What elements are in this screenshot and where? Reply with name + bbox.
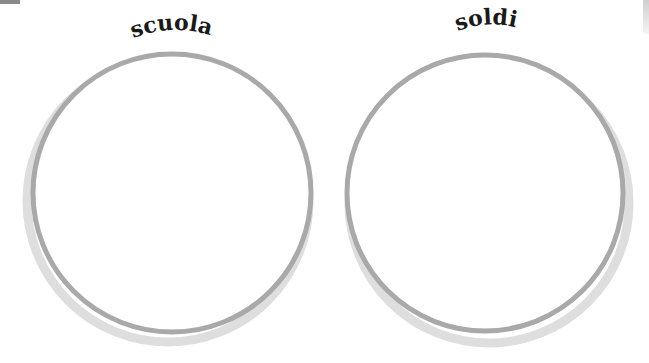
circle-soldi[interactable]: soldi	[347, 3, 629, 343]
circle-label-scuola: scuola	[126, 9, 215, 43]
circle-ring	[33, 54, 311, 332]
circle-scuola[interactable]: scuola	[27, 9, 311, 342]
circle-ring	[347, 55, 623, 331]
circles-canvas: scuola soldi	[0, 0, 649, 363]
circle-label-soldi: soldi	[451, 3, 520, 36]
